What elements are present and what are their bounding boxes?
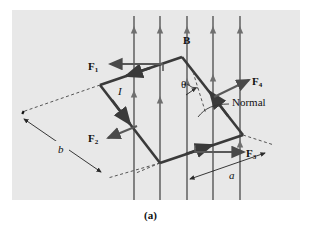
force-connectors [163, 64, 195, 152]
force-2-arrow [108, 126, 137, 138]
force-2-label: F2 [88, 133, 98, 146]
left-vertex-dot [22, 112, 24, 113]
construction-lines [22, 112, 24, 113]
a-extension-right [243, 135, 274, 145]
current-loop [100, 57, 243, 163]
a-extension-left [136, 163, 160, 173]
force-3-label: F3 [246, 148, 256, 161]
current-arrow-left [112, 100, 130, 124]
figure-container: F1 F2 F3 F4 B I θ Normal a b (a) [0, 0, 312, 232]
figure-caption: (a) [144, 210, 157, 221]
force-1-label: F1 [88, 61, 98, 74]
current-arrow-top [126, 68, 150, 76]
force-4-label: F4 [252, 76, 262, 89]
b-extension-top [22, 85, 100, 112]
normal-label: Normal [232, 97, 266, 108]
dimension-a-label: a [229, 170, 235, 181]
current-label: I [118, 86, 122, 97]
theta-angle-label: θ [181, 79, 186, 90]
magnetic-field-label: B [183, 35, 190, 46]
diagram-svg [0, 0, 312, 232]
dimension-b-label: b [58, 144, 64, 155]
force-4-arrow [214, 80, 249, 97]
